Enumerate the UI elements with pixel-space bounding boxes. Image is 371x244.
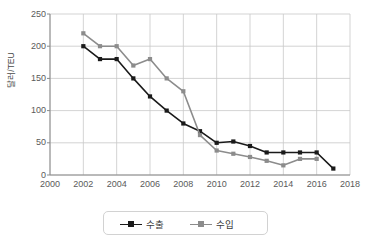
legend-line-marker-icon	[190, 220, 212, 229]
legend-item-import: 수입	[190, 216, 234, 232]
x-axis-tick: 2016	[300, 179, 334, 189]
plot-area	[0, 0, 371, 244]
x-axis-tick: 2000	[33, 179, 67, 189]
x-axis-tick: 2018	[333, 179, 367, 189]
x-axis-tick: 2002	[66, 179, 100, 189]
x-axis-tick: 2004	[100, 179, 134, 189]
x-axis-tick: 2014	[266, 179, 300, 189]
legend-item-export: 수출	[120, 216, 164, 232]
x-axis-tick: 2010	[200, 179, 234, 189]
x-axis-tick: 2006	[133, 179, 167, 189]
x-axis-tick: 2012	[233, 179, 267, 189]
legend-label-export: 수출	[146, 217, 164, 231]
legend-label-import: 수입	[216, 217, 234, 231]
x-axis-tick: 2008	[166, 179, 200, 189]
legend-line-marker-icon	[120, 220, 142, 229]
chart-legend: 수출 수입	[103, 211, 268, 235]
line-chart: 달러/TEU 050100150200250 20002002200420062…	[0, 0, 371, 244]
